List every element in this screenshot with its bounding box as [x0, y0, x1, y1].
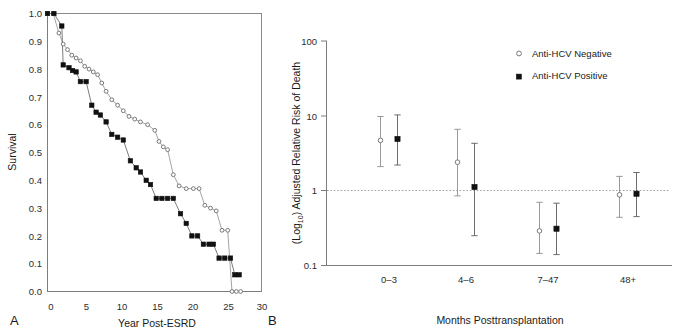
error-bar-positive	[633, 173, 639, 217]
x-tick-label: 25	[223, 301, 234, 312]
risk-error-bars	[377, 115, 639, 255]
legend-label-positive: Anti-HCV Positive	[532, 70, 608, 81]
data-point-positive	[148, 182, 152, 186]
data-point-negative	[66, 48, 70, 52]
data-point-negative	[214, 209, 218, 213]
data-point-negative	[157, 140, 161, 144]
panel-a-y-ticklabels: 1.0 0.9 0.8 0.7 0.6 0.5 0.4 0.3 0.2 0.1 …	[29, 8, 42, 297]
data-point-negative	[74, 56, 78, 60]
panel-b-legend: Anti-HCV Negative Anti-HCV Positive	[516, 48, 611, 81]
data-point-positive	[74, 70, 78, 74]
data-point-negative	[139, 120, 143, 124]
y-tick-label: 0.1	[29, 258, 42, 269]
y-tick-label: 100	[301, 36, 317, 47]
y-tick-label: 0.6	[29, 119, 42, 130]
data-point-positive	[128, 159, 132, 163]
data-point-negative	[61, 42, 65, 46]
data-point-positive	[178, 212, 182, 216]
y-axis-title-prefix: (Log	[290, 223, 302, 244]
panel-a-x-ticklabels: 0 5 10 15 20 25 30	[48, 301, 267, 312]
y-axis-title-suffix: ) Adjusted Relative Risk of Death	[290, 62, 302, 216]
data-point-positive	[237, 273, 241, 277]
data-point-positive	[90, 103, 94, 107]
data-point-negative	[79, 59, 83, 63]
y-tick-label: 1.0	[29, 8, 42, 19]
figure-container: 1.0 0.9 0.8 0.7 0.6 0.5 0.4 0.3 0.2 0.1 …	[0, 0, 681, 331]
data-point-negative	[57, 31, 61, 35]
x-tick-label: 15	[152, 301, 163, 312]
open-circle-icon	[517, 51, 522, 56]
y-tick-label: 0.1	[304, 260, 317, 271]
data-point-negative	[230, 290, 234, 294]
figure-svg: 1.0 0.9 0.8 0.7 0.6 0.5 0.4 0.3 0.2 0.1 …	[0, 0, 681, 331]
data-point-positive	[217, 256, 221, 260]
y-tick-label: 0.0	[29, 286, 42, 297]
data-point-positive	[207, 242, 211, 246]
panel-a-y-axis-title: Survival	[6, 133, 18, 170]
data-point-positive	[165, 196, 169, 200]
y-tick-label: 0.8	[29, 64, 42, 75]
data-point-negative	[220, 228, 224, 232]
data-point-negative	[161, 145, 165, 149]
x-tick-label: 4–6	[458, 274, 474, 285]
panel-b-letter: B	[268, 313, 277, 328]
error-bar-negative	[454, 129, 460, 196]
error-bar-negative	[616, 176, 622, 217]
data-point-negative	[87, 67, 91, 71]
data-point-negative	[83, 64, 87, 68]
data-point-positive	[190, 234, 194, 238]
data-point-positive	[160, 196, 164, 200]
x-tick-label: 10	[117, 301, 128, 312]
data-point-positive	[211, 242, 215, 246]
data-point-negative	[239, 290, 243, 294]
data-point-positive	[98, 113, 102, 117]
legend-entry-positive: Anti-HCV Positive	[516, 70, 607, 81]
data-point-negative	[209, 206, 213, 210]
data-point-positive	[144, 178, 148, 182]
error-bar-negative	[536, 202, 542, 253]
panel-b-x-ticklabels: 0–3 4–6 7–47 48+	[381, 274, 636, 285]
data-point-positive	[184, 221, 188, 225]
x-tick-label: 0	[48, 301, 53, 312]
survival-curve-negative-markers	[46, 12, 243, 294]
data-point-negative	[146, 123, 150, 127]
y-tick-label: 1	[312, 185, 317, 196]
data-point-negative	[234, 290, 238, 294]
panel-a-letter: A	[10, 313, 19, 328]
data-point-negative	[121, 109, 125, 113]
x-tick-label: 0–3	[381, 274, 397, 285]
panel-b-y-axis-title: (Log10) Adjusted Relative Risk of Death	[290, 62, 304, 244]
data-point-negative	[110, 98, 114, 102]
panel-b: 100 10 1 0.1 0–3 4–6 7–47 48+ (Log10) Ad…	[268, 36, 672, 329]
y-tick-label: 0.2	[29, 231, 42, 242]
panel-a: 1.0 0.9 0.8 0.7 0.6 0.5 0.4 0.3 0.2 0.1 …	[6, 8, 267, 329]
y-tick-label: 0.9	[29, 36, 42, 47]
panel-b-y-ticklabels: 100 10 1 0.1	[301, 36, 317, 272]
data-point-positive	[134, 166, 138, 170]
data-point-negative	[104, 89, 108, 93]
panel-a-x-axis-title: Year Post-ESRD	[118, 317, 196, 329]
error-bar-positive	[471, 143, 477, 235]
data-point-positive	[60, 24, 64, 28]
data-point-negative	[203, 203, 207, 207]
panel-a-frame	[47, 14, 262, 292]
data-point-positive	[45, 11, 49, 15]
y-tick-label: 0.4	[29, 175, 42, 186]
data-point-negative	[192, 187, 196, 191]
x-tick-label: 20	[188, 301, 199, 312]
data-point-positive	[228, 256, 232, 260]
data-point-negative	[91, 70, 95, 74]
y-tick-label: 0.7	[29, 92, 42, 103]
data-point-positive	[195, 234, 199, 238]
data-point-positive	[115, 135, 119, 139]
data-point-positive	[138, 170, 142, 174]
data-point-positive	[94, 110, 98, 114]
panel-b-frame	[327, 41, 673, 266]
data-point-negative	[197, 187, 201, 191]
data-point-negative	[177, 184, 181, 188]
error-bar-positive	[553, 203, 559, 254]
y-tick-label: 10	[306, 111, 317, 122]
x-tick-label: 5	[84, 301, 89, 312]
error-bar-positive	[394, 115, 400, 165]
y-tick-label: 0.5	[29, 147, 42, 158]
